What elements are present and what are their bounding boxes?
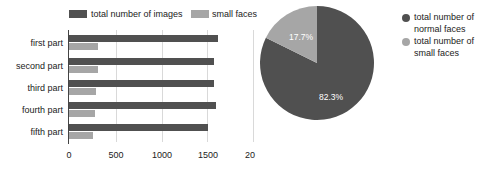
bar-total-images-4 [69,102,216,109]
category-third-part: third part [27,83,63,93]
legend-label-total-images: total number of images [91,9,183,19]
category-first-part: first part [30,38,63,48]
pie-legend: total number of normal faces total numbe… [385,0,488,80]
x-tick-500: 500 [108,150,123,160]
category-second-part: second part [16,61,63,71]
x-tick-2000: 20 [245,150,255,160]
legend-small-line2: small faces [414,48,459,58]
legend-label-small-faces: small faces [212,9,257,19]
x-tick-0: 0 [66,150,71,160]
category-fourth-part: fourth part [22,105,63,115]
x-tick-1500: 1500 [198,150,218,160]
legend-dot-small-faces [402,38,410,46]
bar-small-faces-1 [69,43,98,50]
bar-small-faces-4 [69,110,95,117]
category-labels: first part second part third part fourth… [0,0,63,171]
legend-normal-line1: total number of [414,12,474,22]
pie-label-small: 17.7% [289,32,314,42]
legend-dot-normal-faces [402,14,410,22]
bar-total-images-5 [69,124,208,131]
bar-chart: total number of images small faces first… [0,0,260,171]
pie-svg: 17.7% 82.3% [255,0,385,130]
pie-label-normal: 82.3% [319,92,344,102]
legend-normal-line2: normal faces [414,24,466,34]
category-fifth-part: fifth part [30,127,63,137]
bar-total-images-1 [69,35,218,42]
pie-chart: 17.7% 82.3% [255,0,385,130]
legend-small-line1: total number of [414,36,474,46]
bar-small-faces-5 [69,132,93,139]
bar-total-images-3 [69,80,214,87]
legend-swatch-total-images [69,10,87,18]
bar-total-images-2 [69,58,214,65]
bar-small-faces-3 [69,88,96,95]
legend-swatch-small-faces [191,10,209,18]
x-tick-1000: 1000 [152,150,172,160]
gridline-2000 [253,30,254,142]
bar-small-faces-2 [69,66,98,73]
